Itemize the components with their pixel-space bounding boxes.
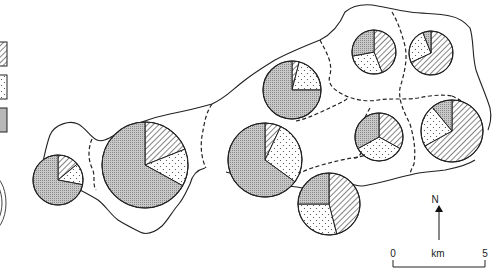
legend-swatch-dotted: [0, 75, 7, 99]
pie-chart: [263, 61, 321, 119]
scale-bar: 0 km 5: [390, 248, 488, 267]
pie-chart: [355, 113, 403, 161]
scale-start-label: 0: [390, 248, 396, 259]
pie-chart: [228, 123, 302, 197]
legend-swatch-grid: [0, 108, 7, 132]
district-map: N 0 km 5: [0, 0, 496, 277]
pie-chart: [409, 31, 453, 75]
north-arrow: N: [431, 194, 443, 240]
pie-chart: [421, 100, 483, 162]
pie-chart: [102, 122, 188, 208]
pie-chart: [352, 30, 396, 74]
scale-unit-label: km: [431, 248, 444, 259]
legend-swatch-hatched: [0, 42, 7, 66]
scale-end-label: 5: [482, 248, 488, 259]
pie-chart: [298, 173, 360, 235]
pie-charts: [33, 30, 483, 235]
north-label: N: [431, 194, 438, 205]
legend: [0, 42, 7, 132]
pie-slice-grid: [352, 30, 374, 56]
north-arrow-icon: [435, 205, 443, 212]
pie-chart: [33, 155, 83, 205]
size-legend-circles: [0, 173, 6, 233]
